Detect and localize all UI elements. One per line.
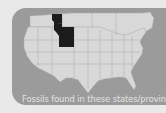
north-america-map [12, 8, 166, 105]
map-caption: Fossils found in these states/provinces [22, 94, 166, 104]
map-panel: Fossils found in these states/provinces [12, 8, 166, 105]
usa-land [24, 27, 146, 93]
